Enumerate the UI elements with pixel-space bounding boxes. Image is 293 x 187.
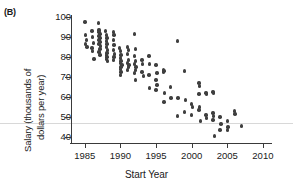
x-tick-2005 [227, 143, 228, 148]
x-tick-1995 [156, 143, 157, 148]
y-tick-40 [65, 137, 71, 138]
data-point [197, 92, 200, 95]
x-axis-line [70, 143, 272, 144]
y-tick-70 [65, 77, 71, 78]
data-point [97, 21, 100, 24]
data-point [169, 96, 172, 99]
x-tick-2000 [192, 143, 193, 148]
data-point [184, 98, 187, 101]
data-point [219, 122, 222, 125]
data-point [140, 58, 143, 61]
x-tick-1990 [120, 143, 121, 148]
data-point [85, 45, 88, 48]
data-point [191, 105, 194, 108]
data-point [126, 68, 129, 71]
data-point [154, 88, 157, 91]
data-point [119, 49, 122, 52]
data-point [104, 29, 107, 32]
data-point [106, 59, 109, 62]
x-tick-label-1995: 1995 [136, 150, 176, 161]
data-point [154, 78, 157, 81]
data-point [212, 114, 215, 117]
data-point [112, 38, 115, 41]
data-point [155, 83, 158, 86]
y-tick-100 [65, 17, 71, 18]
data-point [199, 119, 202, 122]
data-point [142, 74, 145, 77]
data-point [190, 113, 193, 116]
data-point [183, 110, 186, 113]
data-point [205, 116, 208, 119]
data-point [218, 128, 221, 131]
x-axis-title: Start Year [0, 169, 293, 180]
data-point [148, 86, 151, 89]
x-tick-label-2005: 2005 [207, 150, 247, 161]
data-point [240, 124, 243, 127]
data-point [212, 91, 215, 94]
data-point [98, 53, 101, 56]
data-point [84, 33, 87, 36]
data-point [133, 71, 136, 74]
data-point [213, 134, 216, 137]
data-point [92, 57, 95, 60]
data-point [85, 38, 88, 41]
data-point [162, 70, 165, 73]
y-tick-60 [65, 97, 71, 98]
data-point [154, 63, 157, 66]
data-point [183, 69, 186, 72]
data-point [126, 52, 129, 55]
x-tick-1985 [85, 143, 86, 148]
figure-panel-b: (B) Salary (thousands of dollars per yea… [0, 0, 293, 187]
data-point [176, 114, 179, 117]
y-tick-80 [65, 57, 71, 58]
data-point [169, 85, 172, 88]
data-point [155, 71, 158, 74]
data-point [112, 58, 115, 61]
data-point [133, 54, 136, 57]
data-point [226, 119, 229, 122]
data-point [134, 47, 137, 50]
x-tick-label-2000: 2000 [172, 150, 212, 161]
y-tick-50 [65, 117, 71, 118]
data-point [112, 48, 115, 51]
x-tick-2010 [263, 143, 264, 148]
data-point [176, 96, 179, 99]
data-point [163, 91, 166, 94]
data-point [140, 70, 143, 73]
data-point [211, 118, 214, 121]
data-point [205, 92, 208, 95]
data-point [218, 115, 221, 118]
data-point [112, 43, 115, 46]
data-point [226, 128, 229, 131]
data-point [141, 62, 144, 65]
data-point [233, 112, 236, 115]
y-tick-90 [65, 37, 71, 38]
data-point [90, 29, 93, 32]
scatter-plot-area [72, 14, 270, 143]
data-point [91, 35, 94, 38]
data-point [162, 100, 165, 103]
data-point [119, 73, 122, 76]
data-point [91, 49, 94, 52]
data-point [134, 78, 137, 81]
data-point [198, 84, 201, 87]
data-point [127, 48, 130, 51]
data-point [112, 33, 115, 36]
data-point [83, 20, 86, 23]
data-point [197, 108, 200, 111]
data-point [92, 41, 95, 44]
data-point [147, 73, 150, 76]
x-tick-label-2010: 2010 [243, 150, 283, 161]
data-point [133, 32, 136, 35]
x-tick-label-1985: 1985 [65, 150, 105, 161]
data-point [147, 54, 150, 57]
data-point [176, 39, 179, 42]
data-point [148, 62, 151, 65]
x-tick-label-1990: 1990 [100, 150, 140, 161]
